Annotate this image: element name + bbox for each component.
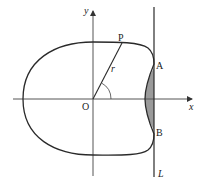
label-y: y xyxy=(83,5,89,16)
label-r: r xyxy=(111,63,115,74)
label-l: L xyxy=(157,168,164,179)
label-p: P xyxy=(118,32,124,43)
polar-curve-diagram: y x O P r A B L xyxy=(0,0,209,187)
label-b: B xyxy=(156,127,163,138)
label-x: x xyxy=(188,101,194,112)
radius-op xyxy=(93,43,122,99)
angle-arc xyxy=(102,83,112,99)
label-a: A xyxy=(156,60,164,71)
label-origin: O xyxy=(82,101,89,112)
